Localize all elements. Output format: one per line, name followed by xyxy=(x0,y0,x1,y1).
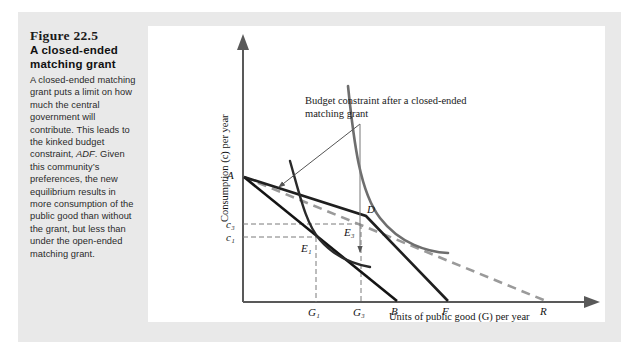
budget-line-closed-ended-ADF xyxy=(244,177,448,301)
caption-adf-italic: ADF xyxy=(76,149,95,159)
y-tick-label-c3: c₃ xyxy=(226,218,235,230)
x-tick-label-B: B xyxy=(391,305,398,317)
caption-line-6b: . xyxy=(95,149,98,159)
figure-caption-text: A closed-ended matching grant puts a lim… xyxy=(30,74,138,260)
x-axis-title: Units of public good (G) per year xyxy=(389,311,530,322)
caption-line-8: preferences, the new xyxy=(30,174,118,184)
x-tick-label-R: R xyxy=(539,305,547,317)
figure-title: A closed-ended matching grant xyxy=(30,44,138,71)
figure-caption-block: Figure 22.5 A closed-ended matching gran… xyxy=(30,28,138,260)
y-tick-label-c1: c₁ xyxy=(226,231,235,243)
budget-line-open-ended-AR xyxy=(244,177,546,301)
x-tick-label-G1: G₁ xyxy=(308,306,320,318)
point-label-A: A xyxy=(226,169,234,181)
annotation-leader-left xyxy=(279,124,360,187)
point-label-E1: E₁ xyxy=(300,242,312,254)
caption-line-14: grant. xyxy=(71,249,95,259)
x-tick-label-F: F xyxy=(441,305,449,317)
point-label-D: D xyxy=(366,203,375,215)
caption-line-1: A closed-ended matching xyxy=(30,75,136,85)
y-axis-title: Consumption (c) per year xyxy=(219,114,231,222)
x-tick-label-G3: G₃ xyxy=(353,306,365,318)
annotation-line-1: Budget constraint after a closed-ended xyxy=(305,95,467,106)
annotation-line-2: matching grant xyxy=(305,108,368,119)
figure-number: Figure 22.5 xyxy=(30,28,138,43)
caption-line-2: grant puts a limit on xyxy=(30,87,112,97)
budget-constraint-chart: Consumption (c) per year Units of public… xyxy=(148,26,605,322)
point-label-E3: E₃ xyxy=(343,226,355,238)
figure-root: Figure 22.5 A closed-ended matching gran… xyxy=(0,0,639,353)
